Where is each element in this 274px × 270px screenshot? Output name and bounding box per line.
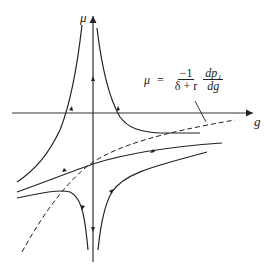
trajectory-arrow-icon <box>62 168 67 172</box>
fraction-2-denominator: dg <box>205 80 221 93</box>
trajectory-arrow-icon <box>116 106 120 111</box>
formula-fraction-2: dp₁ dg <box>203 67 223 93</box>
formula-lhs: μ <box>144 73 150 88</box>
axis-arrow-up-icon <box>91 76 95 81</box>
axis-arrow-down-icon <box>91 227 95 232</box>
fraction-1-denominator: δ + r <box>173 80 199 93</box>
formula-leader-line <box>195 101 206 122</box>
mu-formula: μ = −1 δ + r dp₁ dg <box>144 67 225 93</box>
formula-equals: = <box>157 73 164 88</box>
mu-axis-label: μ <box>80 10 87 26</box>
mu-equals-curve <box>22 120 235 252</box>
saddle-path <box>17 143 222 192</box>
upper-left-trajectory <box>17 25 82 182</box>
formula-fraction-1: −1 δ + r <box>173 67 199 93</box>
phase-diagram <box>0 0 274 270</box>
lower-right-trajectory <box>98 152 207 250</box>
g-axis-label: g <box>254 114 261 130</box>
trajectory-arrow-icon <box>69 106 73 111</box>
